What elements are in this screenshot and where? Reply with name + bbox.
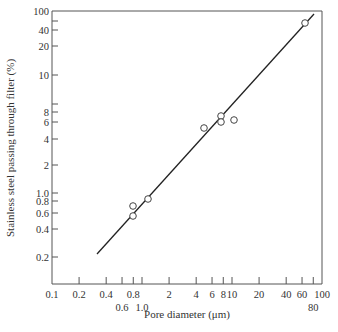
y-tick-label: 0.8	[36, 196, 49, 207]
x-tick-label: 60	[297, 289, 308, 300]
x-tick-label: 0.8	[127, 289, 140, 300]
y-tick-label: 0.4	[36, 224, 50, 235]
x-tick-label: 0.6	[115, 302, 128, 313]
y-axis: 10040201086421.00.80.60.40.2	[33, 6, 58, 263]
x-tick-label: 6	[209, 289, 214, 300]
data-point-marker	[231, 117, 238, 124]
x-tick-label: 8	[221, 289, 226, 300]
x-tick-label: 40	[281, 289, 292, 300]
x-tick-label: 0.2	[73, 289, 86, 300]
x-axis-title: Pore diameter (μm)	[144, 308, 230, 321]
y-axis-title: Stainless steel passing through filter (…	[4, 59, 17, 237]
data-point-marker	[145, 196, 152, 203]
x-tick-label: 0.4	[100, 289, 114, 300]
chart: 0.10.20.40.60.81.024681020406080100 1004…	[0, 0, 338, 332]
data-point-marker	[218, 119, 225, 126]
y-tick-label: 0.6	[36, 208, 49, 219]
x-tick-label: 20	[254, 289, 265, 300]
fit-line	[97, 14, 314, 254]
y-tick-label: 100	[33, 6, 49, 17]
x-tick-label: 2	[166, 289, 171, 300]
y-tick-label: 0.2	[36, 252, 49, 263]
data-point-marker	[130, 203, 137, 210]
y-tick-label: 6	[44, 117, 49, 128]
x-tick-label: 80	[308, 302, 319, 313]
x-tick-label: 100	[314, 289, 330, 300]
data-point-marker	[302, 20, 309, 27]
y-tick-label: 20	[39, 41, 50, 52]
y-tick-label: 4	[44, 134, 50, 145]
plot-frame	[52, 11, 322, 284]
data-point-marker	[201, 125, 208, 132]
x-tick-label: 4	[194, 289, 200, 300]
regression-line	[97, 14, 314, 254]
data-point-marker	[130, 213, 137, 220]
y-tick-label: 2	[44, 160, 49, 171]
x-tick-label: 0.1	[45, 289, 58, 300]
x-tick-label: 10	[227, 289, 238, 300]
y-tick-label: 40	[39, 25, 50, 36]
y-tick-label: 10	[39, 70, 50, 81]
